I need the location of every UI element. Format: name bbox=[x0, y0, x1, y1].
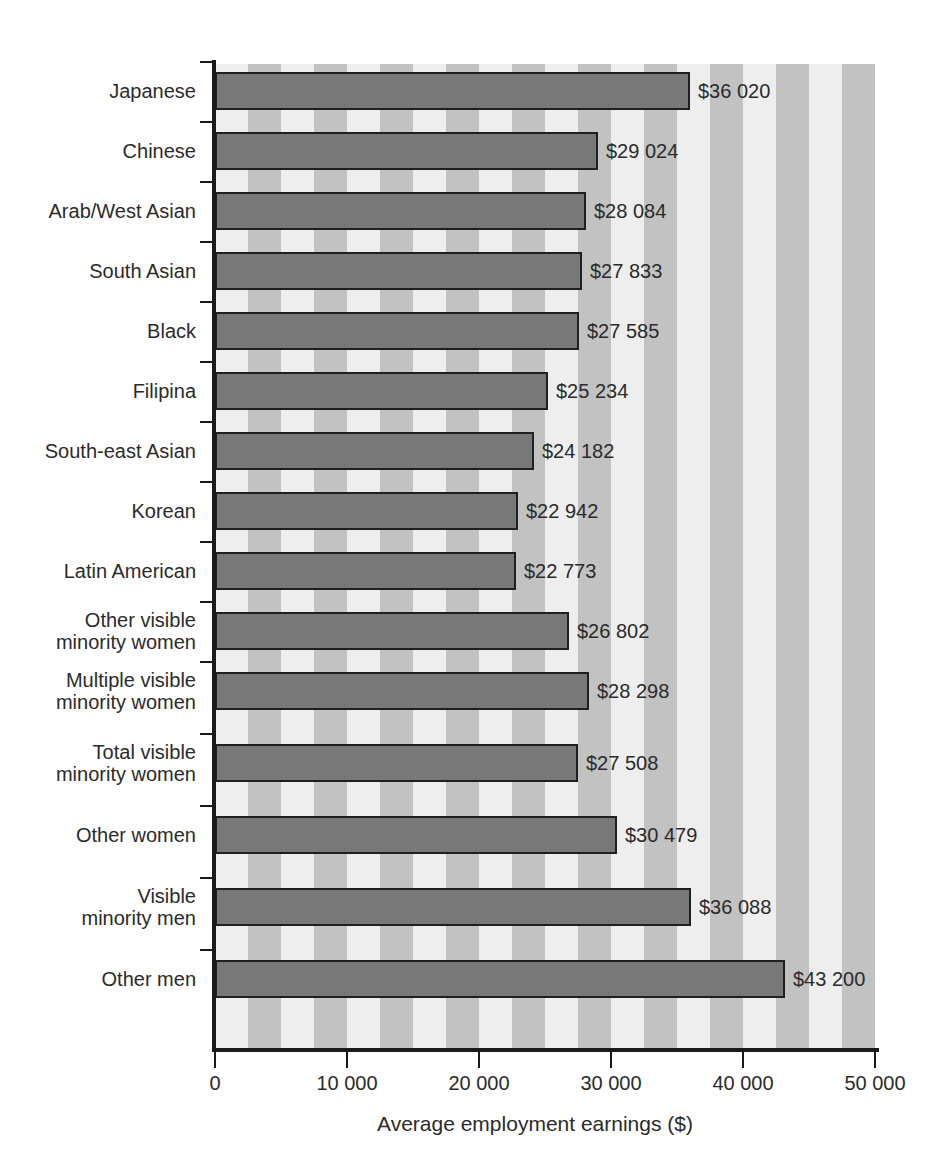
bar bbox=[215, 612, 569, 650]
category-label: Chinese bbox=[12, 140, 212, 162]
category-label-line: Japanese bbox=[109, 80, 196, 102]
bar-chart: $36 020$29 024$28 084$27 833$27 585$25 2… bbox=[0, 0, 950, 1172]
bar bbox=[215, 744, 578, 782]
bar-value-label: $36 088 bbox=[699, 897, 771, 917]
bar-value-label: $28 084 bbox=[594, 201, 666, 221]
category-label-line: Korean bbox=[132, 500, 197, 522]
bar bbox=[215, 432, 534, 470]
category-label-line: minority women bbox=[12, 631, 196, 653]
bar bbox=[215, 312, 579, 350]
x-tick-label: 10 000 bbox=[316, 1072, 377, 1095]
bar bbox=[215, 132, 598, 170]
x-tick bbox=[478, 1052, 480, 1068]
x-tick bbox=[610, 1052, 612, 1068]
bar bbox=[215, 888, 691, 926]
bar-value-label: $36 020 bbox=[698, 81, 770, 101]
x-tick-label: 50 000 bbox=[844, 1072, 905, 1095]
category-label: Filipina bbox=[12, 380, 212, 402]
category-label-line: Other women bbox=[76, 824, 196, 846]
category-label-line: Total visible bbox=[93, 741, 196, 763]
x-tick-label: 0 bbox=[209, 1072, 220, 1095]
category-label-line: Visible bbox=[137, 885, 196, 907]
category-label-line: Latin American bbox=[64, 560, 196, 582]
category-label-line: Other men bbox=[102, 968, 196, 990]
bar-value-label: $26 802 bbox=[577, 621, 649, 641]
category-label: Latin American bbox=[12, 560, 212, 582]
category-label-line: Multiple visible bbox=[66, 669, 196, 691]
bar-value-label: $27 508 bbox=[586, 753, 658, 773]
bar-value-label: $30 479 bbox=[625, 825, 697, 845]
category-label: Japanese bbox=[12, 80, 212, 102]
y-axis-line bbox=[212, 60, 216, 1052]
bar bbox=[215, 192, 586, 230]
bar bbox=[215, 960, 785, 998]
bar-value-label: $22 773 bbox=[524, 561, 596, 581]
category-label-line: Chinese bbox=[123, 140, 196, 162]
x-tick-label: 30 000 bbox=[580, 1072, 641, 1095]
category-label-line: minority women bbox=[12, 691, 196, 713]
bar bbox=[215, 252, 582, 290]
category-label-line: South Asian bbox=[89, 260, 196, 282]
category-label: Total visibleminority women bbox=[12, 741, 212, 786]
category-label: Arab/West Asian bbox=[12, 200, 212, 222]
bar-value-label: $29 024 bbox=[606, 141, 678, 161]
category-label-line: Other visible bbox=[85, 609, 196, 631]
x-tick bbox=[742, 1052, 744, 1068]
category-label-line: Filipina bbox=[133, 380, 196, 402]
bar-value-label: $28 298 bbox=[597, 681, 669, 701]
x-tick bbox=[346, 1052, 348, 1068]
bar-value-label: $43 200 bbox=[793, 969, 865, 989]
bar bbox=[215, 816, 617, 854]
category-label: Other women bbox=[12, 824, 212, 846]
category-label: Other visibleminority women bbox=[12, 609, 212, 654]
category-label: Korean bbox=[12, 500, 212, 522]
x-tick-label: 40 000 bbox=[712, 1072, 773, 1095]
bar bbox=[215, 552, 516, 590]
x-axis-title: Average employment earnings ($) bbox=[0, 1112, 950, 1136]
bar bbox=[215, 492, 518, 530]
category-label: Visibleminority men bbox=[12, 885, 212, 930]
bar-value-label: $24 182 bbox=[542, 441, 614, 461]
x-tick bbox=[214, 1052, 216, 1068]
x-tick bbox=[874, 1052, 876, 1068]
bar-value-label: $25 234 bbox=[556, 381, 628, 401]
bar bbox=[215, 72, 690, 110]
category-label-line: minority women bbox=[12, 763, 196, 785]
category-label-line: South-east Asian bbox=[45, 440, 196, 462]
x-axis-line bbox=[212, 1048, 879, 1052]
category-label: Multiple visibleminority women bbox=[12, 669, 212, 714]
category-label-line: Arab/West Asian bbox=[49, 200, 196, 222]
bar-value-label: $27 833 bbox=[590, 261, 662, 281]
category-label: Black bbox=[12, 320, 212, 342]
category-label-line: Black bbox=[147, 320, 196, 342]
bar bbox=[215, 672, 589, 710]
y-axis-category-labels: JapaneseChineseArab/West AsianSouth Asia… bbox=[0, 0, 212, 1060]
bar-value-label: $27 585 bbox=[587, 321, 659, 341]
category-label-line: minority men bbox=[12, 907, 196, 929]
category-label: Other men bbox=[12, 968, 212, 990]
x-tick-label: 20 000 bbox=[448, 1072, 509, 1095]
category-label: South Asian bbox=[12, 260, 212, 282]
x-axis-title-text: Average employment earnings ($) bbox=[377, 1112, 693, 1135]
category-label: South-east Asian bbox=[12, 440, 212, 462]
bar-value-label: $22 942 bbox=[526, 501, 598, 521]
bar bbox=[215, 372, 548, 410]
